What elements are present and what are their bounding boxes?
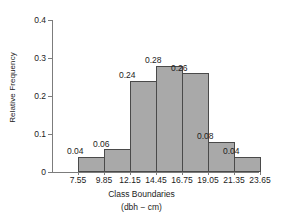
- x-axis-tick-label: 14.45: [142, 176, 170, 185]
- y-axis-tick-label: 0.4: [14, 16, 46, 25]
- y-axis-tick-label: 0.1: [14, 130, 46, 139]
- bar-value-label: 0.06: [93, 140, 110, 149]
- histogram-chart: Relative Frequency 00.10.20.30.4 0.040.0…: [0, 0, 283, 222]
- bar-value-label: 0.24: [119, 71, 136, 80]
- bar-value-label: 0.04: [67, 147, 84, 156]
- bar-value-label: 0.08: [197, 132, 214, 141]
- histogram-bar: [130, 81, 157, 172]
- y-axis-title: Relative Frequency: [4, 0, 20, 175]
- histogram-bar: [78, 157, 105, 172]
- histogram-bar: [104, 149, 131, 172]
- y-axis-tick-label: 0.2: [14, 92, 46, 101]
- histogram-bar: [182, 73, 209, 172]
- x-axis-tick-label: 12.15: [116, 176, 144, 185]
- bar-value-label: 0.04: [223, 147, 240, 156]
- bar-value-label: 0.28: [145, 56, 162, 65]
- plot-area: 0.040.060.240.280.260.080.04: [52, 20, 259, 172]
- x-axis-title: Class Boundaries: [0, 190, 283, 199]
- y-axis-title-text: Relative Frequency: [8, 52, 17, 123]
- histogram-bar: [156, 66, 183, 172]
- x-axis-tick-label: 16.75: [168, 176, 196, 185]
- y-axis-tick-label: 0.3: [14, 54, 46, 63]
- histogram-bar: [234, 157, 261, 172]
- x-axis-tick-label: 19.05: [194, 176, 222, 185]
- x-axis-tick-label: 9.85: [90, 176, 118, 185]
- x-axis-tick-label: 21.35: [220, 176, 248, 185]
- x-axis-tick-label: 7.55: [64, 176, 92, 185]
- bar-value-label: 0.26: [171, 64, 188, 73]
- x-axis-tick-label: 23.65: [246, 176, 274, 185]
- y-axis-tick: [48, 172, 53, 173]
- y-axis-tick-label: 0: [14, 168, 46, 177]
- x-axis-subtitle: (dbh − cm): [0, 203, 283, 212]
